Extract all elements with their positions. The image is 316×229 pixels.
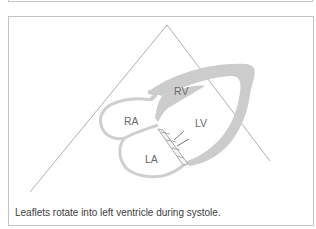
heart-outline xyxy=(100,99,185,177)
echo-apical-four-chamber-diagram: RV RA LV LA xyxy=(0,0,316,229)
label-lv: LV xyxy=(195,117,207,129)
label-rv: RV xyxy=(174,85,188,97)
label-la: LA xyxy=(145,153,158,165)
label-ra: RA xyxy=(124,115,139,127)
figure-caption: Leaflets rotate into left ventricle duri… xyxy=(15,207,221,218)
rv-wall xyxy=(148,92,155,100)
lv-wall xyxy=(148,64,255,166)
